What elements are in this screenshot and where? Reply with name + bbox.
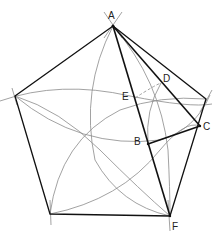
- arc-5: [50, 98, 206, 214]
- point-B: [147, 143, 149, 145]
- label-A: A: [108, 10, 115, 21]
- construction-arcs: [0, 12, 212, 231]
- line-AC: [113, 26, 200, 126]
- construction-lines: [113, 26, 200, 216]
- pentagon-outline: [15, 26, 206, 216]
- arc-1: [15, 95, 210, 142]
- arc-7: [15, 96, 170, 216]
- point-F: [169, 215, 171, 217]
- label-F: F: [172, 221, 178, 231]
- pentagon-construction-diagram: A D E C B F: [0, 0, 222, 231]
- label-C: C: [203, 121, 210, 132]
- arc-6: [50, 125, 200, 214]
- points: [112, 25, 202, 218]
- pentagon: [15, 26, 206, 216]
- label-D: D: [163, 73, 170, 84]
- arc-9: [148, 83, 161, 144]
- label-B: B: [134, 136, 141, 147]
- label-E: E: [122, 91, 129, 102]
- point-C: [199, 125, 201, 127]
- line-BC: [148, 126, 200, 144]
- line-AF: [113, 26, 170, 216]
- point-A: [112, 25, 115, 28]
